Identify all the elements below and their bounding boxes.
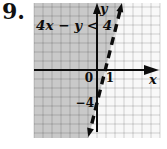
y-axis-label: y xyxy=(99,2,109,16)
problem-number: 9. xyxy=(2,0,25,24)
x-axis-label: x xyxy=(148,72,157,87)
inequality-graph: 4x − y < 4 y x 0 1 −4 xyxy=(33,2,161,143)
textbook-exercise: 9. 4x − y < 4 y x 0 1 −4 xyxy=(0,0,167,149)
graph-canvas: 4x − y < 4 y x 0 1 −4 xyxy=(33,2,161,143)
x-tick-label-1: 1 xyxy=(106,71,114,85)
y-tick-label-neg4: −4 xyxy=(76,96,94,110)
origin-tick-label: 0 xyxy=(85,71,93,85)
inequality-label: 4x − y < 4 xyxy=(36,17,112,33)
